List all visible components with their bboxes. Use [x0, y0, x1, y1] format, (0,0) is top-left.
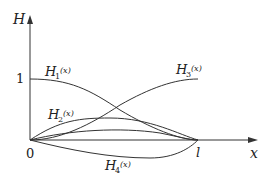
label-h1: H 1 (x) — [44, 64, 71, 81]
y-axis-arrow-icon — [27, 15, 33, 24]
curve-h4 — [30, 140, 198, 158]
x-end-label: l — [196, 145, 200, 160]
svg-text:(x): (x) — [191, 64, 202, 73]
svg-text:(x): (x) — [63, 109, 74, 118]
x-axis-label: x — [250, 145, 258, 161]
x-axis-arrow-icon — [248, 137, 258, 143]
hermite-basis-diagram: H x 0 1 l H 1 (x) H 2 (x) H 3 (x) H 4 (x… — [0, 0, 271, 181]
svg-text:(x): (x) — [120, 160, 131, 169]
svg-text:(x): (x) — [60, 66, 71, 75]
label-h3: H 3 (x) — [175, 62, 202, 79]
y-tick-label: 1 — [16, 71, 24, 86]
label-h4: H 4 (x) — [104, 158, 131, 175]
y-axis-label: H — [12, 11, 26, 27]
origin-label: 0 — [26, 146, 34, 161]
